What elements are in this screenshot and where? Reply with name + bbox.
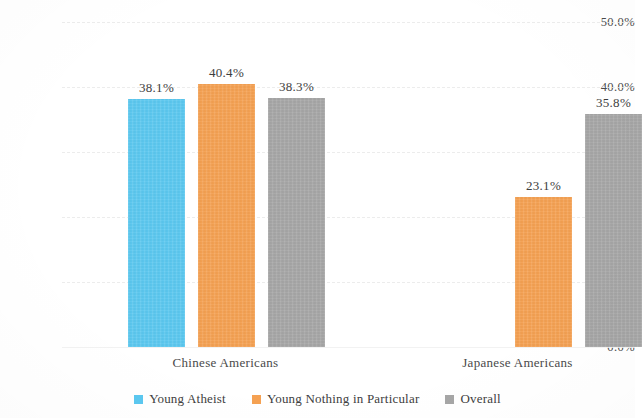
- legend-swatch-icon: [445, 395, 454, 404]
- category-label-chinese-americans: Chinese Americans: [128, 355, 323, 371]
- bar-chinese-young-nothing-in-particular[interactable]: 40.4%: [198, 84, 255, 347]
- bar-value-label: 38.1%: [139, 80, 174, 96]
- gridline-50: [62, 22, 635, 24]
- bar-japanese-young-nothing-in-particular[interactable]: 23.1%: [515, 197, 572, 347]
- legend-item-young-atheist[interactable]: Young Atheist: [134, 391, 226, 407]
- legend: Young Atheist Young Nothing in Particula…: [0, 391, 635, 407]
- bar-fill: [585, 114, 642, 347]
- gridline-baseline: [62, 347, 635, 349]
- bar-chinese-young-atheist[interactable]: 38.1%: [128, 99, 185, 347]
- legend-swatch-icon: [252, 395, 261, 404]
- bar-value-label: 23.1%: [526, 178, 561, 194]
- bar-fill: [128, 99, 185, 347]
- plot-area: 38.1% 40.4% 38.3% 23.1% 35.8%: [62, 22, 635, 347]
- bar-value-label: 40.4%: [209, 65, 244, 81]
- legend-item-overall[interactable]: Overall: [445, 391, 500, 407]
- bar-chinese-overall[interactable]: 38.3%: [268, 98, 325, 347]
- bar-value-label: 38.3%: [279, 79, 314, 95]
- legend-label: Young Nothing in Particular: [267, 391, 420, 407]
- bar-value-label: 35.8%: [596, 95, 631, 111]
- legend-swatch-icon: [134, 395, 143, 404]
- bar-japanese-overall[interactable]: 35.8%: [585, 114, 642, 347]
- bar-fill: [515, 197, 572, 347]
- bar-fill: [268, 98, 325, 347]
- bar-fill: [198, 84, 255, 347]
- legend-label: Young Atheist: [149, 391, 226, 407]
- legend-item-young-nothing-in-particular[interactable]: Young Nothing in Particular: [252, 391, 420, 407]
- category-label-japanese-americans: Japanese Americans: [415, 355, 620, 371]
- legend-label: Overall: [460, 391, 500, 407]
